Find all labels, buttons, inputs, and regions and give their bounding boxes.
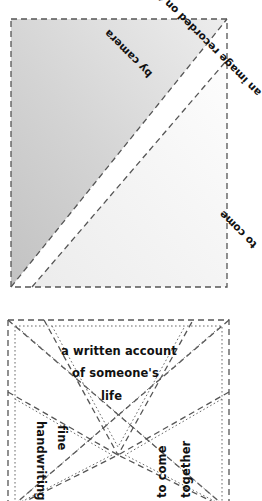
label-together: together — [180, 441, 192, 498]
flap-right-outline-inner — [125, 399, 222, 501]
label-of-someones: of someone's — [72, 367, 159, 379]
label-handwriting: handwriting — [35, 421, 47, 501]
flap-right-outline — [118, 392, 229, 501]
label-fine: fine — [56, 425, 68, 450]
label-a-written-account: a written account — [61, 345, 177, 357]
label-to-come-bottom: to come — [156, 445, 168, 498]
label-life: life — [101, 390, 122, 402]
shaded-fold-panel: an image recorded on film by camera to c… — [0, 0, 237, 300]
